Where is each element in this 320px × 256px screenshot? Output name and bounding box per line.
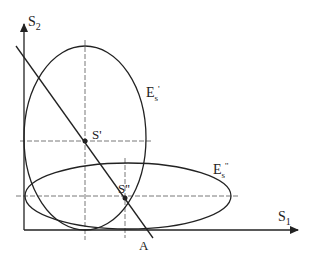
s2-axis-label: S2: [28, 14, 41, 32]
line-a-label: A: [139, 238, 149, 253]
guide-lines: [16, 40, 238, 240]
s-prime-label: S': [92, 127, 102, 142]
point-s-prime: [83, 139, 88, 144]
s-double-prime-label: S'': [118, 181, 130, 196]
point-s-double-prime: [123, 196, 128, 201]
e-s-double-prime-label: Es'': [213, 161, 229, 180]
diagram-canvas: S2 S1 Es' Es'' S' S'' A: [0, 0, 320, 256]
s1-axis-label: S1: [278, 209, 291, 227]
e-s-prime-label: Es': [146, 84, 160, 103]
